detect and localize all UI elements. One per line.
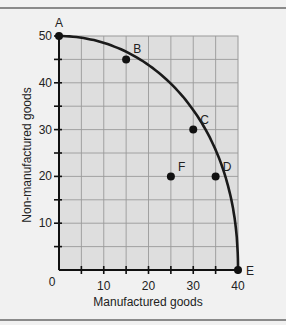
point-a-marker: [55, 32, 63, 40]
x-tick-label: 10: [97, 279, 111, 293]
y-axis-label: Non-manufactured goods: [20, 87, 34, 222]
x-tick-label: 40: [231, 279, 245, 293]
point-c-marker: [189, 126, 197, 134]
origin-label: 0: [49, 275, 56, 289]
point-f-label: F: [178, 160, 185, 174]
x-tick-label: 20: [142, 279, 156, 293]
x-tick-label: 30: [187, 279, 201, 293]
x-axis-label: Manufactured goods: [93, 295, 202, 309]
y-tick-label: 40: [39, 76, 53, 90]
ppf-chart: 1020304010203040500 ABCDEF Manufactured …: [0, 0, 286, 325]
y-tick-label: 10: [39, 216, 53, 230]
point-c-label: C: [200, 113, 209, 127]
point-d-label: D: [223, 160, 232, 174]
point-e-marker: [234, 266, 242, 274]
point-b-label: B: [133, 42, 141, 56]
point-e-label: E: [246, 264, 254, 278]
point-d-marker: [212, 172, 220, 180]
y-tick-label: 30: [39, 123, 53, 137]
y-tick-label: 20: [39, 169, 53, 183]
y-tick-label: 50: [39, 29, 53, 43]
point-a-label: A: [55, 16, 63, 30]
point-b-marker: [122, 55, 130, 63]
point-f-marker: [167, 172, 175, 180]
